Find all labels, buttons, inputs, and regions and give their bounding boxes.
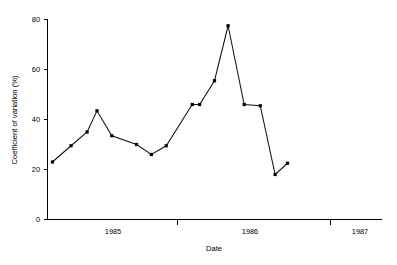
data-point (110, 134, 113, 137)
data-point (227, 24, 230, 27)
y-tick-label-20: 20 (32, 165, 40, 174)
data-point (135, 143, 138, 146)
data-point (191, 103, 194, 106)
data-point (274, 173, 277, 176)
data-point (198, 103, 201, 106)
data-point (243, 103, 246, 106)
data-point (95, 109, 98, 112)
x-tick-label-1986: 1986 (242, 227, 258, 236)
x-axis-title: Date (206, 244, 222, 253)
series-markers (51, 24, 289, 176)
data-point (259, 104, 262, 107)
line-chart: 80 60 40 20 0 1985 1986 1987 Date Coeffi… (0, 0, 397, 265)
data-point (85, 130, 88, 133)
series-line-coefficient-of-variation (52, 26, 287, 175)
data-point (165, 144, 168, 147)
data-point (213, 79, 216, 82)
data-point (51, 160, 54, 163)
y-tick-label-40: 40 (32, 115, 40, 124)
y-tick-label-80: 80 (32, 15, 40, 24)
x-axis-ticks (178, 220, 331, 225)
y-tick-label-60: 60 (32, 65, 40, 74)
y-tick-label-0: 0 (36, 215, 40, 224)
data-point (150, 153, 153, 156)
x-tick-label-1985: 1985 (105, 227, 121, 236)
data-point (286, 162, 289, 165)
y-axis-title: Coefficient of variation (%) (10, 75, 19, 164)
data-point (69, 144, 72, 147)
chart-figure: 80 60 40 20 0 1985 1986 1987 Date Coeffi… (0, 0, 397, 265)
x-tick-label-1987: 1987 (352, 227, 368, 236)
